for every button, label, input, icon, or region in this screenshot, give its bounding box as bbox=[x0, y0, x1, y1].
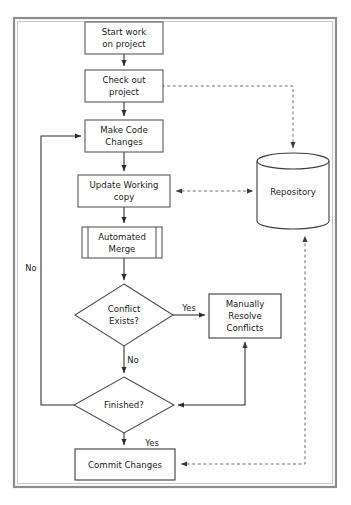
edge-resolve-down-to-finished bbox=[178, 342, 245, 405]
node-commit-changes[interactable]: Commit Changes bbox=[75, 449, 175, 480]
node-make-code-changes-line1: Make Code bbox=[100, 125, 147, 135]
node-repository[interactable]: Repository bbox=[257, 153, 329, 229]
node-check-out-line1: Check out bbox=[102, 75, 146, 85]
node-start-work-line2: on project bbox=[102, 39, 146, 49]
edge-finished-no-to-makecode bbox=[41, 136, 81, 405]
edge-label-conflict-no: No bbox=[127, 355, 138, 365]
node-update-working-copy-line1: Update Working bbox=[90, 180, 159, 190]
node-manually-resolve-line1: Manually bbox=[226, 299, 265, 309]
edge-commit-to-repository bbox=[181, 236, 305, 464]
node-manually-resolve-conflicts[interactable]: Manually Resolve Conflicts bbox=[209, 294, 281, 338]
node-conflict-exists[interactable]: Conflict Exists? bbox=[75, 284, 173, 346]
node-manually-resolve-line3: Conflicts bbox=[226, 323, 264, 333]
edge-label-finished-no: No bbox=[25, 263, 36, 273]
node-automated-merge-line1: Automated bbox=[98, 232, 146, 242]
node-finished-label: Finished? bbox=[104, 400, 144, 410]
node-update-working-copy[interactable]: Update Working copy bbox=[78, 175, 170, 207]
flowchart-svg: Start work on project Check out project … bbox=[0, 0, 351, 505]
node-commit-changes-label: Commit Changes bbox=[88, 460, 162, 470]
node-conflict-exists-line2: Exists? bbox=[109, 316, 139, 326]
node-manually-resolve-line2: Resolve bbox=[228, 311, 261, 321]
node-start-work-line1: Start work bbox=[102, 27, 147, 37]
diagram-frame bbox=[14, 18, 336, 487]
node-check-out-line2: project bbox=[109, 87, 139, 97]
node-automated-merge[interactable]: Automated Merge bbox=[82, 227, 162, 258]
node-make-code-changes-line2: Changes bbox=[105, 137, 143, 147]
node-start-work[interactable]: Start work on project bbox=[85, 22, 163, 54]
edge-label-finished-yes: Yes bbox=[144, 438, 159, 448]
node-update-working-copy-line2: copy bbox=[114, 192, 135, 202]
flowchart-canvas: Start work on project Check out project … bbox=[0, 0, 351, 505]
node-repository-label: Repository bbox=[270, 187, 316, 197]
node-check-out[interactable]: Check out project bbox=[85, 70, 163, 102]
node-make-code-changes[interactable]: Make Code Changes bbox=[85, 120, 163, 152]
node-automated-merge-line2: Merge bbox=[109, 244, 136, 254]
node-conflict-exists-line1: Conflict bbox=[108, 304, 141, 314]
edge-label-conflict-yes: Yes bbox=[181, 303, 196, 313]
node-finished[interactable]: Finished? bbox=[74, 377, 174, 433]
